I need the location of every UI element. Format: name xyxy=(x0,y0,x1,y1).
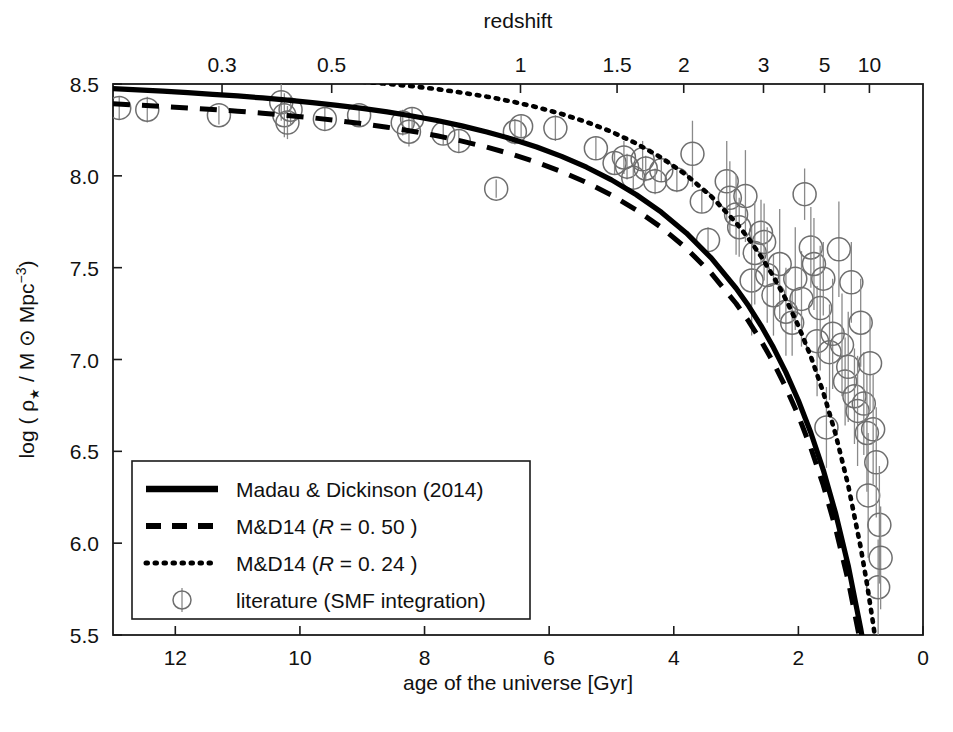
y-axis-title: log ( ρ★ / M ⊙ Mpc−3) xyxy=(13,261,42,459)
redshift-tick-label: 1 xyxy=(515,53,527,76)
x-tick-label: 6 xyxy=(543,646,555,669)
x-axis-title: age of the universe [Gyr] xyxy=(403,671,633,694)
figure-container: 121086420age of the universe [Gyr]5.56.0… xyxy=(0,0,953,732)
x-tick-label: 8 xyxy=(419,646,431,669)
y-tick-label: 8.5 xyxy=(70,73,99,96)
redshift-tick-label: 0.3 xyxy=(207,53,236,76)
legend-label: M&D14 (R = 0. 50 ) xyxy=(236,515,418,538)
redshift-tick-label: 5 xyxy=(819,53,831,76)
x-tick-label: 4 xyxy=(668,646,680,669)
legend: Madau & Dickinson (2014)M&D14 (R = 0. 50… xyxy=(132,461,530,619)
x-tick-label: 0 xyxy=(917,646,929,669)
redshift-tick-label: 1.5 xyxy=(602,53,631,76)
y-tick-label: 8.0 xyxy=(70,165,99,188)
redshift-tick-label: 10 xyxy=(858,53,881,76)
legend-label: Madau & Dickinson (2014) xyxy=(236,478,483,501)
redshift-tick-label: 2 xyxy=(678,53,690,76)
y-tick-label: 5.5 xyxy=(70,624,99,647)
chart-svg: 121086420age of the universe [Gyr]5.56.0… xyxy=(0,0,953,700)
x-tick-label: 12 xyxy=(164,646,187,669)
top-axis-title: redshift xyxy=(484,9,553,32)
redshift-tick-label: 3 xyxy=(758,53,770,76)
y-tick-label: 7.5 xyxy=(70,257,99,280)
legend-label: M&D14 (R = 0. 24 ) xyxy=(236,552,418,575)
y-tick-label: 6.0 xyxy=(70,532,99,555)
y-tick-label: 6.5 xyxy=(70,440,99,463)
x-tick-label: 2 xyxy=(793,646,805,669)
figure-caption-fragment xyxy=(0,705,953,731)
x-tick-label: 10 xyxy=(288,646,311,669)
y-tick-label: 7.0 xyxy=(70,349,99,372)
y-axis-title-text: log ( ρ★ / M ⊙ Mpc−3) xyxy=(13,261,42,459)
legend-label: literature (SMF integration) xyxy=(236,589,486,612)
redshift-tick-label: 0.5 xyxy=(317,53,346,76)
